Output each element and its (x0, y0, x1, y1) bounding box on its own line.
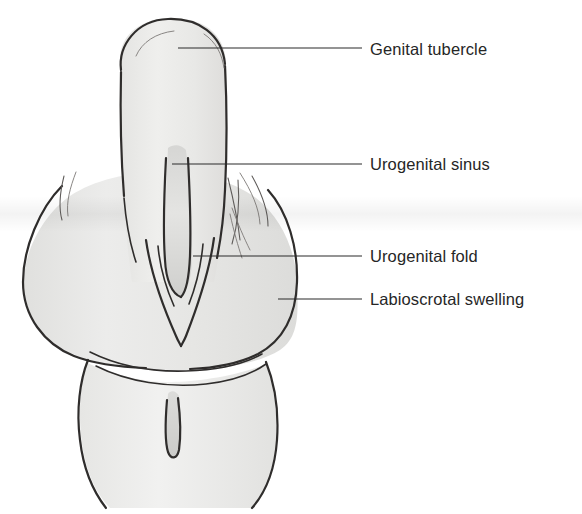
anatomy-figure: Genital tubercle Urogenital sinus Urogen… (0, 0, 582, 514)
scan-tone-band (0, 196, 582, 232)
label-genital-tubercle: Genital tubercle (370, 40, 487, 58)
perineum-tail-shape (78, 360, 277, 508)
label-urogenital-sinus: Urogenital sinus (370, 155, 490, 173)
label-urogenital-fold: Urogenital fold (370, 247, 478, 265)
anatomy-illustration: Genital tubercle Urogenital sinus Urogen… (0, 0, 582, 514)
label-labioscrotal-swelling: Labioscrotal swelling (370, 290, 524, 308)
label-group: Genital tubercle Urogenital sinus Urogen… (370, 40, 524, 308)
urogenital-sinus-shape (164, 145, 192, 297)
